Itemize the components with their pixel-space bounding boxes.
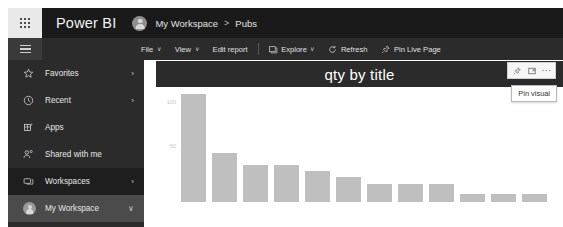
visual-action-bar: ··· [507, 62, 556, 79]
sidebar-item-apps[interactable]: Apps [8, 114, 144, 141]
focus-mode-icon [528, 67, 536, 75]
bar-chart-plot: 100 50 [144, 90, 563, 227]
report-toolbar: File ∨ View ∨ Edit report [8, 38, 563, 60]
bar-slot[interactable] [271, 94, 302, 202]
workspaces-icon [23, 176, 39, 187]
hamburger-icon[interactable] [8, 38, 42, 60]
bar-slot[interactable] [426, 94, 457, 202]
sidebar-item-label: My Workspace [45, 204, 99, 213]
bar[interactable] [274, 165, 299, 202]
bar[interactable] [429, 184, 454, 202]
bar-slot[interactable] [302, 94, 333, 202]
pin-visual-tooltip: Pin visual [511, 85, 557, 102]
app-header: Power BI My Workspace > Pubs [8, 8, 563, 38]
sidebar-item-label: Recent [45, 96, 71, 105]
sidebar-item-label: Apps [45, 123, 64, 132]
bar[interactable] [367, 184, 392, 202]
toolbar-divider [258, 43, 259, 55]
bar-slot[interactable] [364, 94, 395, 202]
bar[interactable] [398, 184, 423, 202]
toolbar-view-label: View [175, 45, 191, 54]
breadcrumb-separator-icon: > [224, 18, 229, 28]
chevron-right-icon: › [131, 70, 134, 78]
clock-icon [23, 95, 39, 106]
chevron-right-icon: › [131, 178, 134, 186]
explore-icon [269, 45, 278, 54]
y-axis-tick-label: 100 [167, 99, 176, 105]
user-avatar-icon[interactable] [132, 16, 147, 31]
bar-slot[interactable] [519, 94, 550, 202]
chevron-down-icon: ∨ [128, 205, 134, 213]
left-navigation: Favorites › Recent › [8, 60, 144, 227]
star-icon [23, 68, 39, 79]
chevron-down-icon: ∨ [157, 46, 161, 52]
bar-slot[interactable] [457, 94, 488, 202]
report-canvas: qty by title [144, 60, 563, 227]
toolbar-item-pin-live-page[interactable]: Pin Live Page [374, 38, 447, 60]
toolbar-item-edit-report[interactable]: Edit report [206, 38, 255, 60]
toolbar-item-view[interactable]: View ∨ [168, 38, 206, 60]
apps-icon [23, 122, 39, 133]
bar[interactable] [212, 153, 237, 202]
toolbar-explore-label: Explore [281, 45, 307, 54]
sidebar-item-label: Shared with me [45, 150, 102, 159]
focus-mode-button[interactable] [524, 64, 539, 77]
breadcrumb-workspace[interactable]: My Workspace [155, 18, 218, 29]
toolbar-item-file[interactable]: File ∨ [134, 38, 168, 60]
toolbar-edit-report-label: Edit report [213, 45, 248, 54]
visual-title: qty by title [325, 66, 395, 83]
bar-slot[interactable] [488, 94, 519, 202]
breadcrumb-item[interactable]: Pubs [235, 18, 257, 29]
ellipsis-icon: ··· [541, 66, 551, 75]
bar-slot[interactable] [178, 94, 209, 202]
toolbar-items: File ∨ View ∨ Edit report [134, 38, 448, 60]
sidebar-item-label: Favorites [45, 69, 79, 78]
y-axis-tick-label: 50 [170, 143, 176, 149]
app-brand-title: Power BI [56, 15, 116, 31]
bar-slot[interactable] [240, 94, 271, 202]
bar[interactable] [491, 194, 516, 202]
visual-title-band: qty by title [156, 61, 563, 87]
chevron-down-icon: ∨ [310, 46, 314, 52]
sidebar-item-my-workspace[interactable]: My Workspace ∨ [8, 195, 144, 222]
breadcrumb: My Workspace > Pubs [155, 18, 257, 29]
sidebar-item-favorites[interactable]: Favorites › [8, 60, 144, 87]
toolbar-file-label: File [141, 45, 153, 54]
sidebar-item-shared-with-me[interactable]: Shared with me [8, 141, 144, 168]
chevron-right-icon: › [131, 97, 134, 105]
waffle-grid-icon [20, 18, 31, 29]
user-avatar-icon [23, 202, 39, 215]
pin-icon [381, 45, 390, 54]
bar[interactable] [522, 194, 547, 202]
sidebar-item-workspaces[interactable]: Workspaces › [8, 168, 144, 195]
sidebar-item-label: Workspaces [45, 177, 90, 186]
pin-icon [513, 67, 521, 75]
bar-slot[interactable] [209, 94, 240, 202]
bar[interactable] [181, 94, 206, 202]
chevron-down-icon: ∨ [195, 46, 199, 52]
bar[interactable] [243, 165, 268, 202]
bar-slot[interactable] [333, 94, 364, 202]
y-axis: 100 50 [152, 90, 176, 202]
toolbar-item-refresh[interactable]: Refresh [321, 38, 374, 60]
waffle-menu-button[interactable] [8, 8, 42, 38]
screenshot-root: Power BI My Workspace > Pubs File ∨ View [0, 0, 563, 227]
toolbar-pin-live-page-label: Pin Live Page [394, 45, 441, 54]
bar[interactable] [305, 171, 330, 202]
sidebar-item-recent[interactable]: Recent › [8, 87, 144, 114]
refresh-icon [328, 45, 337, 54]
toolbar-refresh-label: Refresh [341, 45, 368, 54]
toolbar-item-explore[interactable]: Explore ∨ [262, 38, 322, 60]
more-options-button[interactable]: ··· [539, 64, 554, 77]
pin-visual-button[interactable] [509, 64, 524, 77]
powerbi-app: Power BI My Workspace > Pubs File ∨ View [8, 8, 563, 227]
bar-series [178, 94, 563, 202]
bar[interactable] [336, 177, 361, 202]
bar[interactable] [460, 194, 485, 202]
bar-slot[interactable] [395, 94, 426, 202]
shared-people-icon [23, 149, 39, 160]
